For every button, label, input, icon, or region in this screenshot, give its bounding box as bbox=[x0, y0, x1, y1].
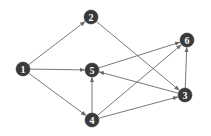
node-5: 5 bbox=[85, 63, 99, 77]
node-label: 5 bbox=[90, 65, 95, 76]
edge-3-to-5 bbox=[99, 72, 178, 93]
node-label: 6 bbox=[185, 35, 190, 46]
directed-graph: 123456 bbox=[0, 0, 211, 136]
arrow-icon bbox=[185, 47, 186, 88]
edge-1-to-2 bbox=[29, 22, 85, 65]
node-label: 3 bbox=[183, 90, 188, 101]
edge-1-to-5 bbox=[30, 69, 85, 70]
arrow-icon bbox=[99, 72, 178, 93]
node-1: 1 bbox=[16, 62, 30, 76]
edge-1-to-4 bbox=[29, 73, 86, 115]
node-6: 6 bbox=[180, 33, 194, 47]
arrow-icon bbox=[29, 22, 85, 65]
edge-4-to-3 bbox=[99, 97, 178, 118]
node-2: 2 bbox=[84, 10, 98, 24]
node-3: 3 bbox=[178, 88, 192, 102]
node-4: 4 bbox=[85, 113, 99, 127]
arrow-icon bbox=[99, 97, 178, 118]
arrow-icon bbox=[99, 42, 180, 68]
arrow-icon bbox=[29, 73, 86, 115]
node-label: 1 bbox=[21, 64, 26, 75]
edge-5-to-6 bbox=[99, 42, 180, 68]
edge-3-to-6 bbox=[185, 47, 186, 88]
arrow-icon bbox=[30, 69, 85, 70]
node-label: 2 bbox=[89, 12, 94, 23]
edge-layer bbox=[29, 21, 187, 118]
node-label: 4 bbox=[90, 115, 95, 126]
